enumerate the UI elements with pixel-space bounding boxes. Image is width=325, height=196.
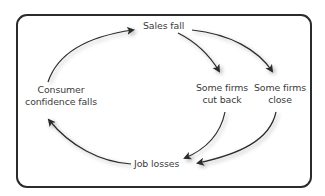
- node-label: Some firms: [250, 82, 310, 94]
- arrow-sales-to-cutback: [178, 33, 219, 71]
- arrow-close-to-joblosses: [198, 112, 276, 163]
- node-label: Sales fall: [143, 20, 184, 32]
- node-label: Job losses: [134, 158, 179, 170]
- arrow-sales-to-close: [192, 30, 272, 71]
- arrow-cutback-to-joblosses: [185, 112, 225, 158]
- node-sales-fall: Sales fall: [143, 20, 184, 32]
- node-label: Some firms: [192, 82, 252, 94]
- node-label: Consumer: [20, 84, 102, 96]
- arrow-confidence-to-sales: [48, 30, 133, 82]
- node-consumer-confidence: Consumer confidence falls: [20, 84, 102, 108]
- node-job-losses: Job losses: [134, 158, 179, 170]
- node-label: confidence falls: [20, 96, 102, 108]
- node-firms-cut-back: Some firms cut back: [192, 82, 252, 106]
- node-firms-close: Some firms close: [250, 82, 310, 106]
- node-label: cut back: [192, 94, 252, 106]
- arrow-joblosses-to-confidence: [49, 120, 131, 164]
- node-label: close: [250, 94, 310, 106]
